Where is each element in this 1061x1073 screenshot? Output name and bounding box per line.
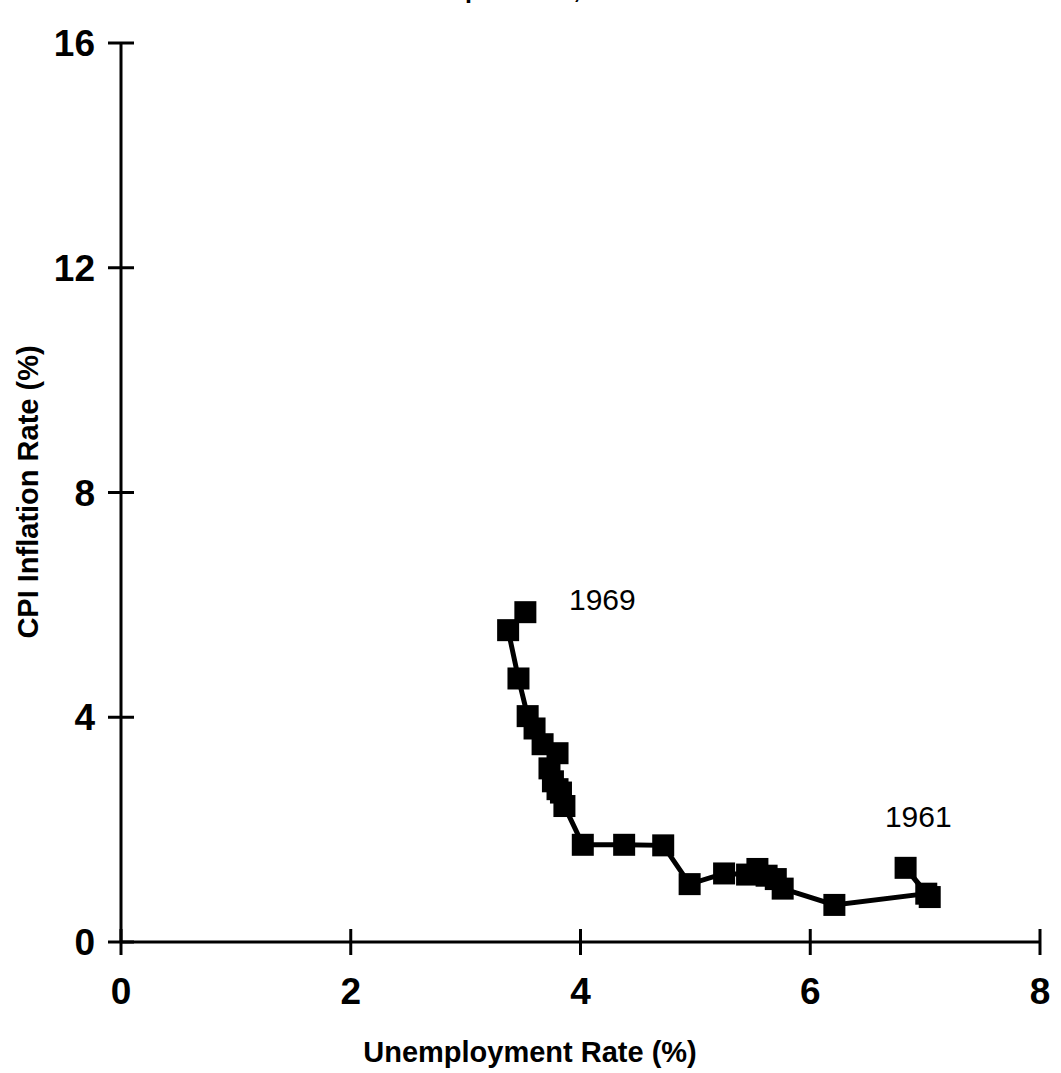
x-axis-tick-label: 6 (800, 971, 821, 1012)
y-axis-title: CPI Inflation Rate (%) (12, 345, 44, 638)
y-axis-tick-label: 16 (54, 23, 95, 64)
x-axis-title: Unemployment Rate (%) (363, 1036, 697, 1068)
data-point-marker (517, 705, 539, 727)
data-point-marker (895, 857, 917, 879)
chart-figure: The Phillips Curve, 1961-1969 0481216 02… (0, 0, 1061, 1073)
y-axis-tick-label: 4 (74, 697, 95, 738)
y-axis: 0481216 (54, 23, 134, 963)
data-point-marker (713, 862, 735, 884)
data-point-markers (497, 601, 941, 916)
y-axis-tick-label: 8 (74, 473, 95, 514)
x-axis: 02468 (111, 929, 1051, 1012)
data-point-marker (652, 834, 674, 856)
data-point-marker (572, 834, 594, 856)
data-point-marker (823, 894, 845, 916)
y-axis-tick-label: 0 (74, 922, 95, 963)
x-axis-tick-label: 0 (111, 971, 132, 1012)
data-point-annotation: 1961 (885, 800, 952, 833)
y-axis-tick-label: 12 (54, 248, 95, 289)
data-annotations: 19691961 (569, 583, 952, 832)
data-point-marker (514, 601, 536, 623)
data-point-marker (613, 834, 635, 856)
data-point-marker (679, 873, 701, 895)
data-point-marker (915, 883, 937, 905)
data-point-annotation: 1969 (569, 583, 636, 616)
x-axis-tick-label: 2 (340, 971, 361, 1012)
phillips-curve-plot: 0481216 02468 19691961 Unemployment Rate… (0, 0, 1061, 1073)
data-point-marker (507, 667, 529, 689)
data-point-marker (736, 864, 758, 886)
x-axis-tick-label: 4 (570, 971, 591, 1012)
x-axis-tick-label: 8 (1030, 971, 1051, 1012)
series-line (508, 612, 930, 905)
data-series-line (508, 612, 930, 905)
